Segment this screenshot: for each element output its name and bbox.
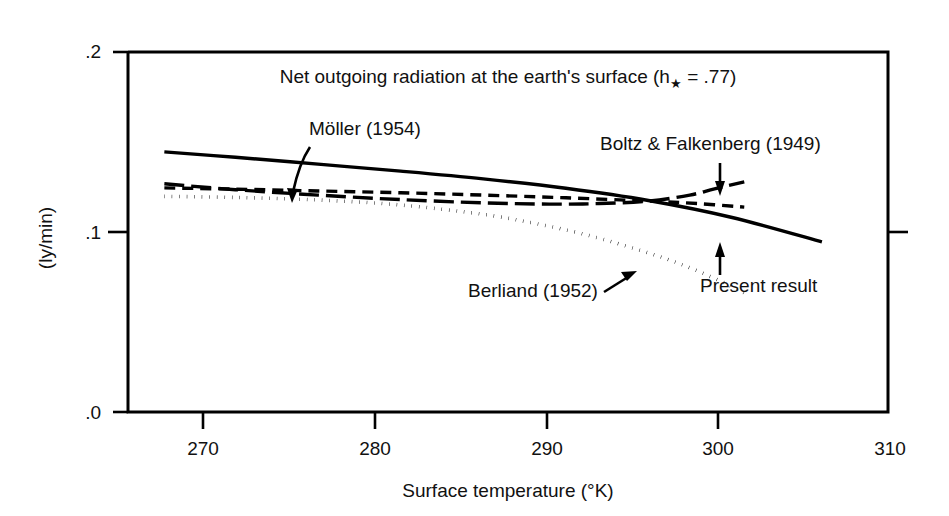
annotation-present-result-arrowhead (715, 242, 725, 257)
annotation-berliand: Berliand (1952) (468, 271, 637, 301)
y-ticklabel-0.1: .1 (85, 222, 101, 243)
x-axis-ticks (203, 412, 718, 429)
annotation-present-result-label: Present result (700, 275, 818, 296)
annotation-moller-arrowhead (287, 188, 298, 203)
chart-title-main: Net outgoing radiation at the earth's su… (280, 66, 670, 87)
chart-title: Net outgoing radiation at the earth's su… (280, 66, 737, 91)
series-berliand-1952 (164, 196, 747, 295)
annotation-berliand-label: Berliand (1952) (468, 280, 598, 301)
x-ticklabel-310: 310 (874, 438, 906, 459)
x-ticklabel-270: 270 (187, 438, 219, 459)
annotation-moller-arrow (293, 147, 310, 192)
series-group (164, 152, 822, 295)
annotation-moller-label: Möller (1954) (309, 118, 421, 139)
annotation-berliand-arrow (604, 277, 628, 292)
annotation-boltz-falkenberg-label: Boltz & Falkenberg (1949) (600, 133, 821, 154)
y-axis-title: (ly/min) (35, 207, 56, 269)
y-ticklabel-0.0: .0 (85, 402, 101, 423)
x-ticklabel-290: 290 (531, 438, 563, 459)
y-ticklabel-0.2: .2 (85, 41, 101, 62)
chart-title-star: ★ (670, 76, 682, 91)
annotation-present-result: Present result (700, 242, 818, 296)
x-axis-title: Surface temperature (°K) (402, 480, 613, 501)
x-ticklabel-300: 300 (702, 438, 734, 459)
annotation-boltz-falkenberg: Boltz & Falkenberg (1949) (600, 133, 821, 196)
chart-title-tail: = .77) (682, 66, 736, 87)
x-ticklabel-280: 280 (359, 438, 391, 459)
plot-frame (128, 52, 888, 412)
line-chart: .2 .1 .0 (ly/min) 270 280 290 300 310 Su… (0, 0, 949, 516)
figure-container: .2 .1 .0 (ly/min) 270 280 290 300 310 Su… (0, 0, 949, 516)
